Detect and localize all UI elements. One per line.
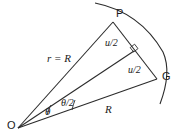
point-label-o: O <box>7 120 16 131</box>
angle-label-theta: θ <box>45 106 50 117</box>
point-label-p: P <box>116 8 123 19</box>
angle-label-theta-half: θ/2 <box>61 98 74 108</box>
chord-half-label-lower: u/2 <box>128 65 141 75</box>
geometry-figure: O P G r = R u/2 u/2 R θ θ/2 <box>0 0 177 137</box>
figure-canvas <box>0 0 177 137</box>
point-label-g: G <box>162 71 171 82</box>
radius-label-top: r = R <box>47 53 71 64</box>
radius-line-og <box>18 79 157 128</box>
chord-half-label-upper: u/2 <box>105 38 118 48</box>
radius-label-bottom: R <box>105 104 112 115</box>
